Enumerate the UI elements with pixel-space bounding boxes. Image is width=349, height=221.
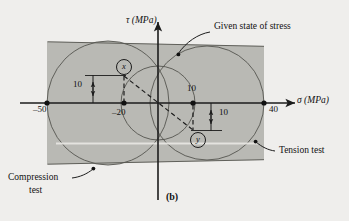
figure-caption: (b) [152,192,192,203]
leader-compression-test [72,169,93,178]
annotation-compression: Compression [8,173,58,183]
mohr-circle-diagram [0,0,349,221]
sigma-axis-label: σ (MPa) [297,96,329,106]
leader-dot-given-state [177,53,181,57]
annotation-tension-test: Tension test [279,146,325,156]
tick-label-40: 40 [269,105,278,114]
point-label-y: y [193,135,203,144]
dimension-label-left-10: 10 [73,80,82,89]
annotation-compression-test-second-line: test [29,186,42,196]
point-label-x: x [119,62,129,71]
point-40 [261,100,266,105]
annotation-given-state-of-stress: Given state of stress [214,22,291,32]
tau-axis-label: τ (MPa) [126,16,157,26]
tick-label-minus50: –50 [33,105,47,114]
point-minus20 [121,100,126,105]
mohr-failure-criterion-figure: τ (MPa) σ (MPa) –50 –20 10 40 10 10 x y … [0,0,349,221]
dimension-label-right-10: 10 [219,108,228,117]
leader-dot-compression-test [92,167,96,171]
tick-label-minus20: –20 [112,108,126,117]
point-10 [190,100,195,105]
leader-dot-tension-test [254,140,258,144]
tick-label-10: 10 [187,84,196,93]
